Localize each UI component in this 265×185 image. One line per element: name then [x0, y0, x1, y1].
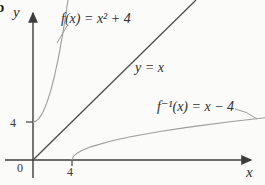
- f-curve-label: f(x) = x² + 4: [61, 11, 131, 27]
- function-inverse-figure: b y x 4 0 4 f(x) = x² + 4 y = x f⁻¹(x) =…: [0, 0, 265, 185]
- f-inverse-curve-label: f⁻¹(x) = x − 4: [157, 99, 234, 115]
- f-inverse-label-leader-line: [235, 109, 257, 119]
- y-axis-label: y: [11, 4, 20, 20]
- identity-line-label: y = x: [133, 60, 165, 75]
- x-tick-label-4: 4: [67, 165, 73, 179]
- plot-svg: b y x 4 0 4 f(x) = x² + 4 y = x f⁻¹(x) =…: [0, 0, 265, 185]
- curve-f-inverse: [72, 118, 265, 161]
- panel-label: b: [0, 0, 4, 15]
- y-tick-label-4: 4: [10, 116, 16, 130]
- x-axis-label: x: [245, 164, 253, 180]
- origin-label: 0: [17, 161, 23, 175]
